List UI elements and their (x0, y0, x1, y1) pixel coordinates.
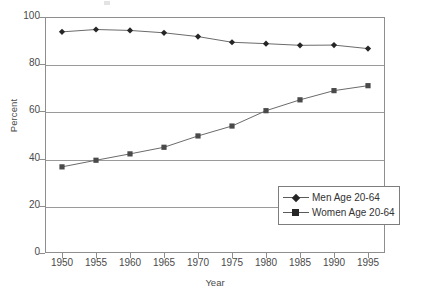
x-axis-tick-mark (130, 253, 131, 258)
diamond-marker-icon (283, 192, 309, 203)
y-axis-tick-mark (39, 253, 45, 254)
legend-item-label: Women Age 20-64 (309, 207, 395, 218)
x-axis-tick-mark (232, 253, 233, 258)
y-axis-tick-label: 20 (8, 199, 40, 210)
x-axis-tick-mark (266, 253, 267, 258)
square-marker-icon (283, 207, 309, 218)
legend-item-label: Men Age 20-64 (309, 192, 380, 203)
y-axis-tick-label: 0 (8, 246, 40, 257)
x-axis-title: Year (44, 277, 386, 288)
y-axis-tick-label: 80 (8, 57, 40, 68)
x-axis-tick-mark (198, 253, 199, 258)
y-axis-tick-label: 40 (8, 152, 40, 163)
image-edge-artifact (104, 1, 110, 5)
x-axis-tick-mark (334, 253, 335, 258)
legend-item: Men Age 20-64 (283, 190, 394, 205)
legend-item: Women Age 20-64 (283, 205, 394, 220)
gridline (46, 65, 384, 66)
x-axis-tick-mark (164, 253, 165, 258)
gridline (46, 112, 384, 113)
x-axis-tick-mark (96, 253, 97, 258)
x-axis-tick-mark (62, 253, 63, 258)
gridline (46, 160, 384, 161)
y-axis-tick-label: 60 (8, 104, 40, 115)
x-axis-tick-mark (300, 253, 301, 258)
y-axis-tick-label: 100 (8, 10, 40, 21)
chart-figure: Percent Year 100806040200 19501955196019… (0, 0, 422, 298)
x-axis-tick-mark (368, 253, 369, 258)
x-axis-tick-label: 1995 (348, 257, 388, 268)
legend: Men Age 20-64 Women Age 20-64 (278, 186, 400, 225)
y-axis-title: Percent (8, 81, 19, 151)
